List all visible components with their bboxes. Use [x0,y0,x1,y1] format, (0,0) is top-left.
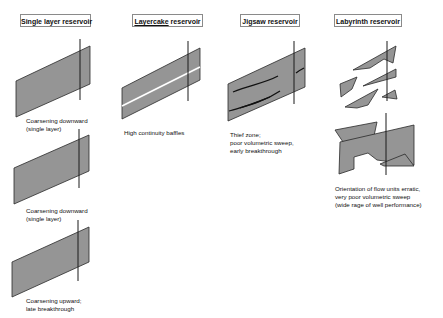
caption-line: Coarsening upward; [26,297,81,305]
caption-line: (wide rage of well performance) [335,201,422,209]
caption-labyrinth: Orientation of flow units erratic, very … [335,185,422,209]
title-layercake-underlined: Layercake [134,18,168,25]
caption-layercake: High continuity baffles [124,129,184,137]
reservoir-diagram [0,0,443,318]
labyrinth-shard-2 [340,77,357,97]
single-layer-body-3 [12,227,89,297]
caption-line: Orientation of flow units erratic, [335,185,422,193]
caption-single-layer-2: Coarsening downward (single layer) [26,207,88,223]
caption-line: Coarsening downward [26,117,88,125]
caption-line: (single layer) [26,125,88,133]
single-layer-body-1 [16,46,90,117]
labyrinth-shard-5 [382,90,397,99]
labyrinth-shard-3 [363,69,396,86]
caption-line: late breakthrough [26,305,81,313]
title-layercake: Layercake reservoir [132,14,203,27]
caption-line: High continuity baffles [124,129,184,137]
title-layercake-rest: reservoir [169,18,201,25]
caption-line: (single layer) [26,215,88,223]
caption-line: Coarsening downward [26,207,88,215]
caption-single-layer-1: Coarsening downward (single layer) [26,117,88,133]
labyrinth-shard-4 [345,89,378,108]
title-labyrinth: Labyrinth reservoir [334,14,402,27]
caption-line: poor volumetric sweep, [230,139,294,147]
title-jigsaw: Jigsaw reservoir [240,14,300,27]
caption-jigsaw: Thief zone; poor volumetric sweep, early… [230,131,294,155]
labyrinth-shard-1 [353,46,396,70]
caption-single-layer-3: Coarsening upward; late breakthrough [26,297,81,313]
caption-line: very poor volumetric sweep [335,193,422,201]
caption-line: early breakthrough [230,147,294,155]
caption-line: Thief zone; [230,131,294,139]
single-layer-body-2 [14,135,89,204]
jigsaw-body [228,48,305,121]
title-single-layer: Single layer reservoir [20,14,91,27]
